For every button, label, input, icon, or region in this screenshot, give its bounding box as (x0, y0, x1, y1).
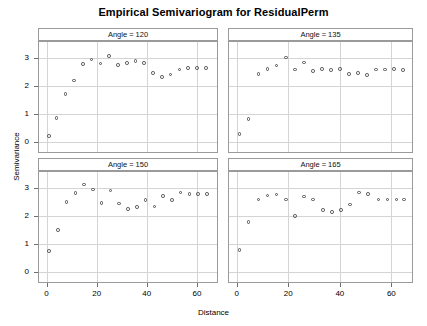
data-point (47, 249, 51, 253)
panel-strip-label-angle-120: Angle = 120 (38, 28, 218, 41)
data-point (238, 248, 242, 252)
gridline-horizontal (39, 86, 217, 87)
data-point (72, 79, 76, 83)
gridline-vertical (97, 42, 98, 152)
y-axis-tick-label: 3 (7, 184, 29, 192)
gridline-horizontal (229, 142, 412, 143)
y-axis-tick-label: 2 (7, 82, 29, 90)
gridline-vertical (340, 42, 341, 152)
gridline-horizontal (229, 114, 412, 115)
gridline-vertical (147, 42, 148, 152)
gridline-vertical (340, 172, 341, 282)
plot-area-angle-120 (38, 41, 218, 153)
data-point (160, 75, 164, 79)
y-axis-label: Semivariance (12, 107, 21, 207)
data-point (109, 189, 113, 193)
panel-angle-150: Angle = 150 (38, 158, 218, 283)
data-point (91, 188, 95, 192)
data-point (195, 66, 199, 70)
data-point (284, 56, 288, 60)
data-point (144, 198, 148, 202)
data-point (365, 73, 369, 77)
y-axis-tick (34, 58, 38, 59)
data-point (257, 198, 261, 202)
data-point (151, 71, 155, 75)
data-point (401, 68, 405, 72)
data-point (47, 134, 51, 138)
page-title: Empirical Semivariogram for ResidualPerm (0, 6, 427, 18)
data-point (374, 68, 378, 72)
x-axis-tick (288, 283, 289, 287)
data-point (188, 192, 192, 196)
x-axis-tick (47, 283, 48, 287)
data-point (284, 198, 288, 202)
panel-strip-label-angle-135: Angle = 135 (228, 28, 413, 41)
data-point (74, 191, 78, 195)
data-point (320, 67, 324, 71)
panel-angle-135: Angle = 135 (228, 28, 413, 153)
y-axis-tick (34, 272, 38, 273)
y-axis-tick (34, 114, 38, 115)
data-point (275, 64, 279, 68)
gridline-vertical (391, 172, 392, 282)
data-point (339, 208, 343, 212)
gridline-horizontal (39, 216, 217, 217)
data-point (142, 61, 146, 65)
x-axis-tick (391, 283, 392, 287)
x-axis-tick-label: 40 (136, 290, 158, 298)
gridline-horizontal (229, 58, 412, 59)
gridline-vertical (237, 172, 238, 282)
plot-area-angle-165 (228, 171, 413, 283)
gridline-horizontal (229, 188, 412, 189)
data-point (116, 63, 120, 67)
data-point (170, 198, 174, 202)
panel-angle-165: Angle = 165 (228, 158, 413, 283)
data-point (134, 59, 138, 63)
data-point (275, 193, 279, 197)
data-point (377, 198, 381, 202)
gridline-horizontal (39, 58, 217, 59)
data-point (81, 62, 85, 66)
data-point (107, 54, 111, 58)
plot-area-angle-135 (228, 41, 413, 153)
data-point (55, 116, 59, 120)
panel-strip-label-angle-150: Angle = 150 (38, 158, 218, 171)
data-point (257, 72, 261, 76)
x-axis-tick (340, 283, 341, 287)
panel-strip-label-angle-165: Angle = 165 (228, 158, 413, 171)
data-point (100, 201, 104, 205)
data-point (383, 68, 387, 72)
gridline-vertical (288, 42, 289, 152)
data-point (178, 68, 182, 72)
gridline-horizontal (39, 272, 217, 273)
gridline-horizontal (39, 114, 217, 115)
data-point (321, 208, 325, 212)
data-point (366, 192, 370, 196)
y-axis-tick-label: 2 (7, 212, 29, 220)
data-point (82, 183, 86, 187)
y-axis-tick (34, 188, 38, 189)
data-point (395, 198, 399, 202)
gridline-vertical (197, 172, 198, 282)
x-axis-tick (97, 283, 98, 287)
x-axis-tick-label: 40 (329, 290, 351, 298)
gridline-vertical (391, 42, 392, 152)
gridline-horizontal (39, 244, 217, 245)
gridline-horizontal (39, 188, 217, 189)
data-point (356, 71, 360, 75)
data-point (266, 67, 270, 71)
x-axis-tick-label: 20 (86, 290, 108, 298)
data-point (348, 203, 352, 207)
y-axis-tick (34, 142, 38, 143)
data-point (293, 68, 297, 72)
data-point (293, 214, 297, 218)
data-point (196, 192, 200, 196)
gridline-vertical (197, 42, 198, 152)
x-axis-tick (197, 283, 198, 287)
data-point (56, 228, 60, 232)
data-point (179, 191, 183, 195)
x-axis-tick-label: 0 (36, 290, 58, 298)
gridline-vertical (47, 172, 48, 282)
data-point (161, 194, 165, 198)
x-axis-tick (147, 283, 148, 287)
